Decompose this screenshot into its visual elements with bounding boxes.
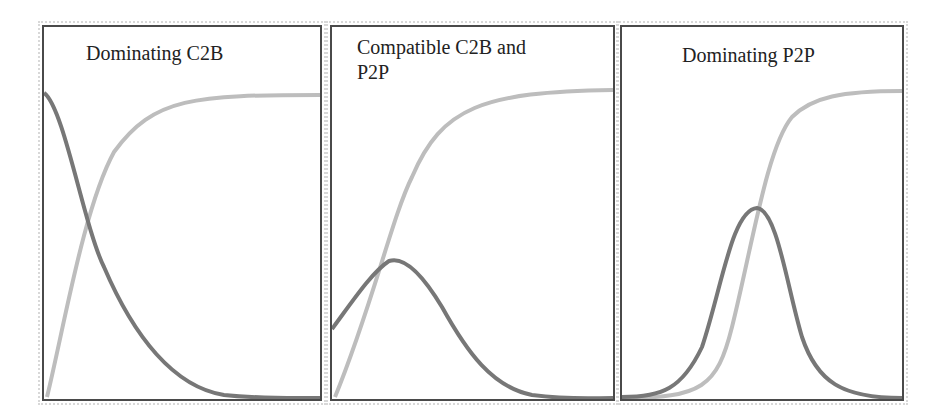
curves-plot — [44, 27, 320, 399]
curves-plot — [332, 27, 613, 399]
panel-dominating-p2p: Dominating P2P — [620, 25, 904, 401]
light-curve — [47, 95, 320, 397]
light-curve — [335, 90, 613, 397]
light-curve — [622, 91, 902, 398]
dark-curve — [622, 208, 902, 398]
panel-compatible: Compatible C2B and P2P — [330, 25, 615, 401]
dark-curve — [44, 93, 320, 398]
curves-plot — [622, 27, 902, 399]
panel-dominating-c2b: Dominating C2B — [42, 25, 322, 401]
